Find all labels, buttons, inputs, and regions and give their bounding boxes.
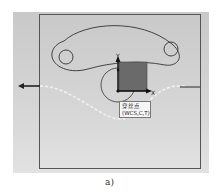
label-line-2: (WCS,C,T): [122, 110, 148, 117]
origin-point: [116, 89, 119, 92]
left-arrow-icon: [18, 83, 24, 89]
shaded-square: [119, 62, 147, 91]
wire-edm-diagram: Y X: [0, 0, 219, 196]
figure-caption: a): [0, 177, 219, 187]
curved-part-outline: [52, 26, 180, 71]
right-hole: [164, 42, 178, 56]
label-line-1: 穿丝点: [122, 103, 148, 110]
y-axis-label: Y: [115, 52, 120, 59]
y-axis-marker: [117, 69, 119, 71]
cutting-path: [40, 86, 185, 119]
left-hole: [59, 50, 73, 64]
x-axis-label: X: [151, 89, 155, 96]
threading-point-label: 穿丝点 (WCS,C,T): [119, 101, 151, 118]
